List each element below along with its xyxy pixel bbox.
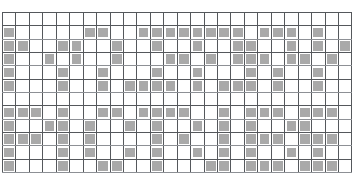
grid-cell-empty[interactable] xyxy=(70,66,83,79)
grid-cell-empty[interactable] xyxy=(16,146,29,159)
grid-cell-filled[interactable] xyxy=(338,39,351,52)
grid-cell-filled[interactable] xyxy=(16,133,29,146)
grid-cell-filled[interactable] xyxy=(244,79,257,92)
grid-cell-filled[interactable] xyxy=(56,66,69,79)
grid-cell-empty[interactable] xyxy=(110,66,123,79)
grid-cell-filled[interactable] xyxy=(177,133,190,146)
grid-cell-filled[interactable] xyxy=(56,106,69,119)
grid-cell-empty[interactable] xyxy=(285,66,298,79)
grid-cell-filled[interactable] xyxy=(244,159,257,172)
grid-cell-filled[interactable] xyxy=(56,39,69,52)
grid-cell-filled[interactable] xyxy=(231,26,244,39)
grid-cell-empty[interactable] xyxy=(231,146,244,159)
grid-cell-empty[interactable] xyxy=(191,93,204,106)
grid-cell-empty[interactable] xyxy=(312,119,325,132)
grid-cell-empty[interactable] xyxy=(70,13,83,26)
grid-cell-empty[interactable] xyxy=(204,39,217,52)
grid-cell-empty[interactable] xyxy=(137,39,150,52)
grid-cell-filled[interactable] xyxy=(218,26,231,39)
grid-cell-empty[interactable] xyxy=(218,13,231,26)
grid-cell-empty[interactable] xyxy=(123,39,136,52)
grid-cell-empty[interactable] xyxy=(70,79,83,92)
grid-cell-empty[interactable] xyxy=(204,66,217,79)
grid-cell-empty[interactable] xyxy=(137,66,150,79)
grid-cell-filled[interactable] xyxy=(244,146,257,159)
grid-cell-filled[interactable] xyxy=(56,119,69,132)
grid-cell-filled[interactable] xyxy=(258,106,271,119)
grid-cell-filled[interactable] xyxy=(258,26,271,39)
grid-cell-empty[interactable] xyxy=(338,53,351,66)
grid-cell-filled[interactable] xyxy=(204,26,217,39)
grid-cell-filled[interactable] xyxy=(312,159,325,172)
grid-cell-filled[interactable] xyxy=(43,119,56,132)
grid-cell-empty[interactable] xyxy=(258,119,271,132)
grid-cell-filled[interactable] xyxy=(56,133,69,146)
grid-cell-empty[interactable] xyxy=(231,106,244,119)
grid-cell-empty[interactable] xyxy=(285,13,298,26)
grid-cell-filled[interactable] xyxy=(97,26,110,39)
grid-container[interactable] xyxy=(2,12,352,173)
grid-cell-empty[interactable] xyxy=(244,93,257,106)
grid-cell-empty[interactable] xyxy=(16,93,29,106)
grid-cell-empty[interactable] xyxy=(97,119,110,132)
grid-cell-empty[interactable] xyxy=(83,79,96,92)
grid-cell-empty[interactable] xyxy=(177,93,190,106)
grid-cell-filled[interactable] xyxy=(83,119,96,132)
grid-cell-filled[interactable] xyxy=(150,106,163,119)
grid-cell-filled[interactable] xyxy=(3,133,16,146)
grid-cell-filled[interactable] xyxy=(312,79,325,92)
grid-cell-empty[interactable] xyxy=(16,13,29,26)
grid-cell-empty[interactable] xyxy=(164,119,177,132)
grid-cell-empty[interactable] xyxy=(56,26,69,39)
grid-cell-empty[interactable] xyxy=(285,93,298,106)
grid-cell-empty[interactable] xyxy=(164,146,177,159)
grid-cell-empty[interactable] xyxy=(271,53,284,66)
grid-cell-empty[interactable] xyxy=(83,13,96,26)
grid-cell-empty[interactable] xyxy=(110,93,123,106)
grid-cell-filled[interactable] xyxy=(218,133,231,146)
grid-cell-empty[interactable] xyxy=(177,66,190,79)
grid-cell-filled[interactable] xyxy=(3,106,16,119)
grid-cell-filled[interactable] xyxy=(312,66,325,79)
grid-cell-filled[interactable] xyxy=(164,79,177,92)
grid-cell-filled[interactable] xyxy=(218,119,231,132)
grid-cell-empty[interactable] xyxy=(177,79,190,92)
grid-cell-filled[interactable] xyxy=(164,106,177,119)
grid-cell-filled[interactable] xyxy=(244,119,257,132)
grid-cell-empty[interactable] xyxy=(218,66,231,79)
grid-cell-empty[interactable] xyxy=(177,119,190,132)
grid-cell-empty[interactable] xyxy=(338,146,351,159)
grid-cell-empty[interactable] xyxy=(298,39,311,52)
grid-cell-empty[interactable] xyxy=(150,53,163,66)
grid-cell-empty[interactable] xyxy=(29,93,42,106)
grid-cell-empty[interactable] xyxy=(204,13,217,26)
grid-cell-empty[interactable] xyxy=(97,93,110,106)
grid-cell-filled[interactable] xyxy=(150,66,163,79)
grid-cell-filled[interactable] xyxy=(325,53,338,66)
grid-cell-filled[interactable] xyxy=(231,53,244,66)
grid-cell-filled[interactable] xyxy=(325,133,338,146)
grid-cell-empty[interactable] xyxy=(29,39,42,52)
grid-cell-empty[interactable] xyxy=(97,53,110,66)
grid-cell-empty[interactable] xyxy=(164,93,177,106)
grid-cell-empty[interactable] xyxy=(83,106,96,119)
grid-cell-empty[interactable] xyxy=(43,79,56,92)
grid-cell-empty[interactable] xyxy=(325,146,338,159)
grid-cell-filled[interactable] xyxy=(83,146,96,159)
grid-cell-filled[interactable] xyxy=(97,106,110,119)
grid-cell-empty[interactable] xyxy=(43,13,56,26)
grid-cell-empty[interactable] xyxy=(258,146,271,159)
grid-cell-filled[interactable] xyxy=(298,119,311,132)
grid-cell-empty[interactable] xyxy=(29,146,42,159)
grid-cell-filled[interactable] xyxy=(137,26,150,39)
grid-cell-filled[interactable] xyxy=(3,79,16,92)
grid-cell-empty[interactable] xyxy=(29,159,42,172)
grid-cell-empty[interactable] xyxy=(16,159,29,172)
grid-cell-empty[interactable] xyxy=(56,93,69,106)
grid-cell-filled[interactable] xyxy=(271,66,284,79)
grid-cell-empty[interactable] xyxy=(325,66,338,79)
grid-cell-empty[interactable] xyxy=(312,93,325,106)
grid-cell-empty[interactable] xyxy=(204,106,217,119)
grid-cell-empty[interactable] xyxy=(285,133,298,146)
grid-cell-empty[interactable] xyxy=(29,66,42,79)
